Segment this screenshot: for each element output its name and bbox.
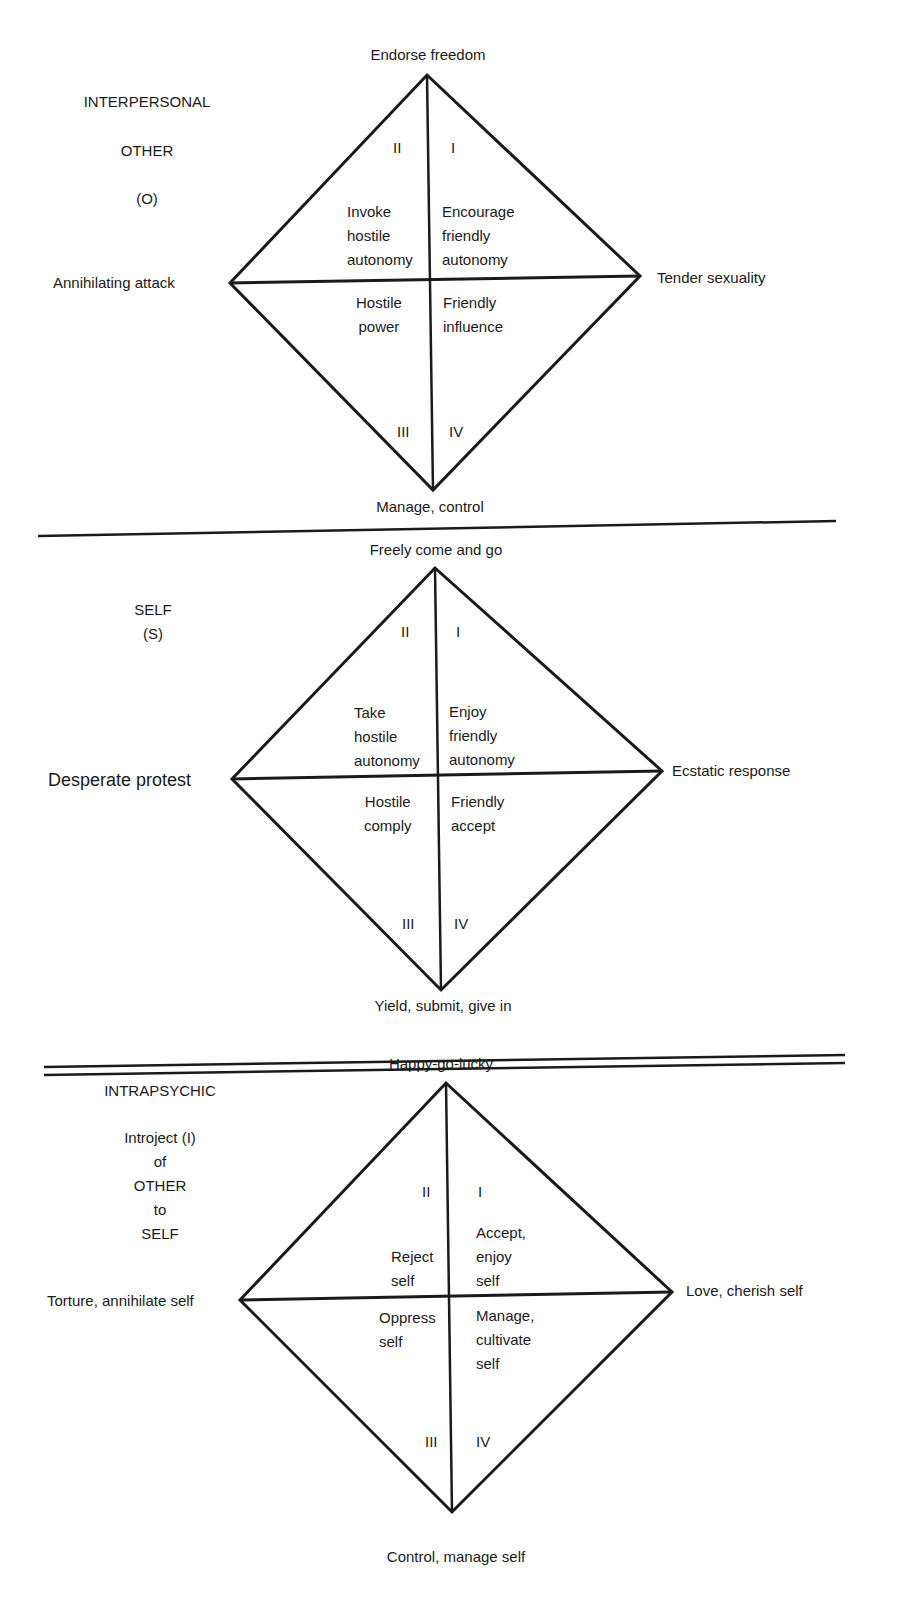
cell-upper-right: Encourage friendly autonomy <box>442 200 515 272</box>
cell-lower-left: Hostile power <box>356 291 402 339</box>
cell-lower-left: Hostile comply <box>364 790 412 838</box>
cell-upper-left: Take hostile autonomy <box>354 701 420 773</box>
quadrant-numeral-2: II <box>393 136 401 160</box>
pole-right: Ecstatic response <box>672 759 790 783</box>
quadrant-numeral-4: IV <box>449 420 463 444</box>
pole-right: Love, cherish self <box>686 1279 803 1303</box>
pole-bottom: Yield, submit, give in <box>374 994 511 1018</box>
pole-top: Happy-go-lucky <box>389 1052 493 1076</box>
quadrant-numeral-1: I <box>456 620 460 644</box>
pole-right: Tender sexuality <box>657 266 765 290</box>
side-label-title: SELF <box>134 598 172 622</box>
cell-lower-right: Friendly influence <box>443 291 503 339</box>
quadrant-numeral-4: IV <box>454 912 468 936</box>
quadrant-numeral-1: I <box>451 136 455 160</box>
pole-bottom: Manage, control <box>376 495 484 519</box>
side-label-abbrev: (S) <box>143 622 163 646</box>
pole-left: Torture, annihilate self <box>47 1289 194 1313</box>
pole-left: Annihilating attack <box>53 271 175 295</box>
pole-bottom: Control, manage self <box>387 1545 525 1569</box>
diamond-self <box>232 568 662 990</box>
cell-lower-left: Oppress self <box>379 1306 436 1354</box>
side-label-title: INTERPERSONAL <box>84 90 211 114</box>
pole-top: Freely come and go <box>370 538 503 562</box>
cell-upper-left: Invoke hostile autonomy <box>347 200 413 272</box>
side-label-abbrev: (O) <box>136 187 158 211</box>
cell-upper-right: Accept, enjoy self <box>476 1221 526 1293</box>
quadrant-numeral-2: II <box>401 620 409 644</box>
cell-lower-right: Manage, cultivate self <box>476 1304 534 1376</box>
diamond-interpersonal <box>230 75 640 490</box>
quadrant-numeral-3: III <box>425 1430 438 1454</box>
separator-line <box>38 521 836 536</box>
cell-lower-right: Friendly accept <box>451 790 504 838</box>
cell-upper-left: Reject self <box>391 1245 434 1293</box>
pole-left: Desperate protest <box>48 768 191 792</box>
side-label-title: INTRAPSYCHIC <box>104 1079 216 1103</box>
diamond-intrapsychic <box>240 1083 672 1512</box>
quadrant-numeral-3: III <box>397 420 410 444</box>
side-label-other: OTHER <box>121 139 174 163</box>
pole-top: Endorse freedom <box>370 43 485 67</box>
cell-upper-right: Enjoy friendly autonomy <box>449 700 515 772</box>
side-label-description: Introject (I) of OTHER to SELF <box>124 1126 196 1246</box>
quadrant-numeral-3: III <box>402 912 415 936</box>
quadrant-numeral-2: II <box>422 1180 430 1204</box>
quadrant-numeral-4: IV <box>476 1430 490 1454</box>
quadrant-numeral-1: I <box>478 1180 482 1204</box>
